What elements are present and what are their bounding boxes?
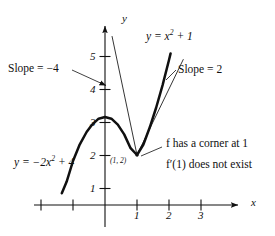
equation-right-suffix: + 1	[174, 30, 193, 42]
y-tick-label-2: 2	[90, 150, 96, 161]
curves-group	[62, 53, 171, 193]
corner-note-line-1: f has a corner at 1	[166, 138, 248, 150]
corner-note-line-2: f′(1) does not exist	[166, 159, 252, 171]
leaders-group	[72, 70, 176, 156]
x-tick-label-1: 1	[134, 210, 140, 221]
equation-right-branch: y = x2 + 1	[146, 29, 193, 42]
slope-2-label: Slope = 2	[178, 64, 222, 76]
equation-left-prefix: y = −2x	[14, 156, 51, 168]
x-tick-label-2: 2	[166, 210, 172, 221]
slope-negative-4-label: Slope = −4	[8, 63, 59, 75]
equation-left-suffix: + 4	[55, 156, 74, 168]
math-figure: y x 1 2 3 1 2 3 4 5 Slope = −4 Slope = 2…	[0, 0, 275, 236]
y-tick-label-5: 5	[90, 51, 96, 62]
axes-group	[34, 26, 238, 227]
y-tick-label-4: 4	[90, 84, 96, 95]
x-tick-label-3: 3	[198, 210, 204, 221]
y-tick-label-1: 1	[90, 183, 96, 194]
corner-point-marker	[135, 153, 138, 156]
equation-right-prefix: y = x	[146, 30, 170, 42]
leader-corner-note	[141, 147, 162, 156]
y-axis-label: y	[122, 13, 127, 24]
graph-canvas	[0, 0, 275, 236]
y-tick-label-3: 3	[90, 117, 96, 128]
leader-slope-negative-4	[72, 70, 106, 86]
equation-left-branch: y = −2x2 + 4	[14, 155, 74, 168]
corner-point-label: (1, 2)	[110, 157, 126, 165]
x-axis-label: x	[251, 197, 256, 208]
